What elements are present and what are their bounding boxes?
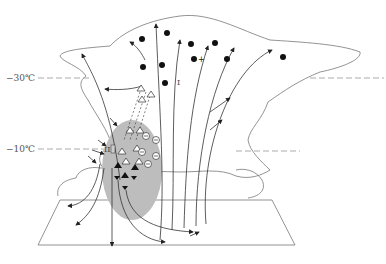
ground-plane	[38, 200, 295, 245]
thunderstorm-diagram: +	[0, 0, 386, 264]
temp-label-minus10: −10℃	[6, 144, 35, 154]
temperature-levels	[38, 78, 384, 151]
updraft-streamlines	[82, 24, 272, 240]
region-label-i: I	[177, 78, 180, 87]
ice-crystals-upper	[139, 30, 286, 86]
temp-label-minus30: −30℃	[6, 73, 35, 83]
positive-charge-plus: +	[198, 55, 205, 64]
region-ii-box	[111, 145, 115, 153]
region-label-ii: II	[104, 145, 110, 154]
